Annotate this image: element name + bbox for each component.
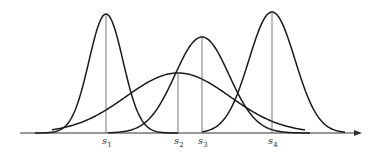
curve-s4 (202, 12, 345, 132)
curve-s2 (52, 73, 305, 130)
distribution-diagram (0, 0, 378, 153)
label-s1: s1 (102, 136, 112, 149)
label-s3: s3 (198, 136, 208, 149)
label-s2: s2 (174, 136, 184, 149)
curve-s1 (35, 14, 178, 133)
curves-group (35, 12, 345, 133)
x-axis-arrow-icon (354, 130, 362, 136)
mean-lines-group (106, 12, 272, 133)
label-s4: s4 (268, 136, 278, 149)
curve-s3 (108, 37, 310, 133)
